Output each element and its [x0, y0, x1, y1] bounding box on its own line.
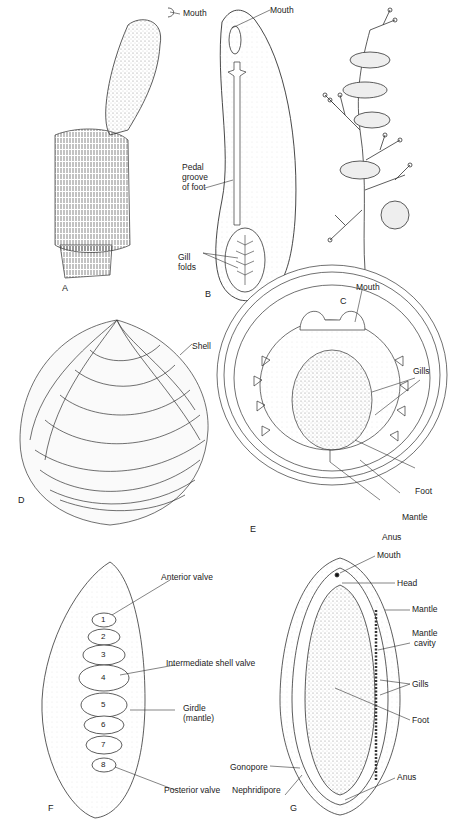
- label-e-mouth: Mouth: [356, 282, 380, 292]
- label-f-intermediate-valve: Intermediate shell valve: [166, 658, 255, 668]
- label-g-mouth: Mouth: [377, 550, 401, 560]
- label-b-pedal-1: Pedal: [182, 162, 204, 172]
- label-g-foot: Foot: [412, 715, 429, 725]
- label-f-girdle-2: (mantle): [183, 713, 214, 723]
- label-b-gill-2: folds: [178, 262, 196, 272]
- label-g-cavity-1: Mantle: [412, 628, 438, 638]
- panel-letter-d: D: [18, 495, 25, 505]
- label-b-gill-1: Gill: [178, 252, 190, 262]
- panel-g-drawing: [270, 556, 410, 815]
- label-a-mouth: Mouth: [183, 8, 207, 18]
- label-f-anterior-valve: Anterior valve: [161, 572, 213, 582]
- label-g-gills: Gills: [412, 679, 429, 689]
- panel-letter-e: E: [250, 524, 256, 534]
- illustration-artwork: [0, 0, 461, 832]
- panel-letter-c: C: [340, 296, 347, 306]
- panel-a-drawing: [55, 8, 180, 278]
- panel-f-drawing: [42, 562, 175, 818]
- label-b-mouth: Mouth: [270, 5, 294, 15]
- label-e-foot: Foot: [415, 486, 432, 496]
- valve-number-2: 2: [101, 632, 105, 642]
- label-g-gonopore: Gonopore: [230, 762, 268, 772]
- label-b-pedal-3: of foot: [182, 182, 206, 192]
- valve-number-4: 4: [101, 673, 105, 683]
- valve-number-1: 1: [101, 615, 105, 625]
- panel-letter-b: B: [205, 289, 211, 299]
- valve-number-5: 5: [101, 700, 105, 710]
- panel-b-drawing: [203, 10, 296, 301]
- label-d-shell: Shell: [192, 341, 211, 351]
- panel-d-drawing: [20, 320, 208, 525]
- label-e-anus: Anus: [382, 532, 401, 542]
- panel-letter-a: A: [62, 283, 68, 293]
- label-g-head: Head: [397, 578, 417, 588]
- valve-number-3: 3: [101, 650, 105, 660]
- label-b-pedal-2: groove: [182, 172, 208, 182]
- panel-c-drawing: [323, 8, 412, 270]
- label-g-mantle: Mantle: [412, 604, 438, 614]
- label-f-posterior-valve: Posterior valve: [164, 785, 220, 795]
- valve-number-7: 7: [101, 740, 105, 750]
- label-e-gills: Gills: [413, 366, 430, 376]
- label-g-anus: Anus: [397, 772, 416, 782]
- panel-letter-f: F: [48, 803, 54, 813]
- valve-number-6: 6: [101, 720, 105, 730]
- label-e-mantle: Mantle: [402, 512, 428, 522]
- valve-number-8: 8: [101, 760, 105, 770]
- label-g-cavity-2: cavity: [414, 638, 436, 648]
- panel-e-drawing: [217, 265, 447, 500]
- panel-letter-g: G: [290, 803, 297, 813]
- label-g-nephridipore: Nephridipore: [232, 785, 281, 795]
- label-f-girdle-1: Girdle: [183, 703, 206, 713]
